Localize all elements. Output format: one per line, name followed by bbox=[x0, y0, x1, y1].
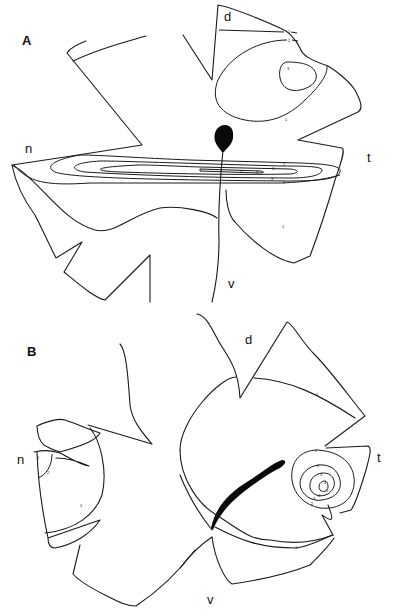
retina-outline-b-left-cut bbox=[88, 344, 152, 444]
panel-label-a: A bbox=[22, 33, 32, 48]
svg-text:1: 1 bbox=[285, 117, 288, 122]
retina-outline-b-ventral-line bbox=[215, 527, 333, 548]
panel-a: A 1 2 3 1 2 3 4 5 3 2 1 d n t bbox=[12, 5, 371, 302]
svg-text:1: 1 bbox=[282, 224, 285, 229]
orient-b-temporal: t bbox=[377, 450, 381, 465]
figure-canvas: A 1 2 3 1 2 3 4 5 3 2 1 d n t bbox=[0, 0, 393, 614]
retina-outline-b-cross bbox=[180, 475, 212, 568]
orient-b-ventral: v bbox=[207, 592, 214, 607]
retina-outline-b-dorsal-cut bbox=[197, 314, 365, 446]
orient-a-temporal: t bbox=[367, 150, 371, 165]
orient-a-nasal: n bbox=[25, 141, 32, 156]
retina-outline-a-cut-top bbox=[183, 5, 361, 263]
svg-text:2: 2 bbox=[47, 470, 50, 475]
contour-a-2-dorsal bbox=[215, 40, 327, 121]
retina-outline-b-ventral-lower bbox=[212, 537, 334, 584]
svg-text:2: 2 bbox=[317, 463, 320, 468]
contour-a-5-streak bbox=[200, 169, 264, 173]
svg-text:2: 2 bbox=[288, 38, 291, 43]
orient-a-ventral: v bbox=[228, 276, 235, 291]
orient-a-dorsal: d bbox=[224, 9, 231, 24]
contour-a-4-streak bbox=[100, 165, 297, 174]
svg-text:3: 3 bbox=[271, 176, 274, 181]
retina-outline-a-stalk bbox=[212, 150, 223, 302]
panel-label-b: B bbox=[27, 344, 36, 359]
svg-text:1: 1 bbox=[288, 29, 291, 34]
svg-text:5: 5 bbox=[240, 169, 243, 174]
retina-outline-b-nasal-flap bbox=[37, 419, 100, 452]
contour-a-3-dorsal bbox=[280, 62, 317, 91]
retina-outline-b-nasal-arc bbox=[45, 428, 104, 533]
optic-disc-b bbox=[211, 460, 285, 530]
optic-disc-a bbox=[214, 125, 233, 152]
contour-b-1-nasal bbox=[38, 454, 52, 478]
orient-b-nasal: n bbox=[17, 452, 24, 467]
svg-text:5: 5 bbox=[326, 488, 329, 493]
retina-outline-b-lower bbox=[73, 545, 195, 606]
retina-outline-b-main-top bbox=[180, 377, 355, 450]
orient-b-dorsal: d bbox=[245, 332, 252, 347]
retina-outline-b-nasal bbox=[34, 451, 100, 548]
svg-text:2: 2 bbox=[311, 501, 314, 506]
panel-b: B 1 2 1 1 1 2 3 4 5 bbox=[17, 314, 381, 607]
svg-text:1: 1 bbox=[37, 455, 40, 460]
svg-text:3: 3 bbox=[287, 66, 290, 71]
retina-outline-b-temporal-flap bbox=[326, 446, 370, 513]
retina-outline-a-lower bbox=[12, 165, 217, 231]
svg-text:1: 1 bbox=[80, 503, 83, 508]
retina-outline-a-top-arc bbox=[73, 36, 146, 61]
retina-outline-b-main-left bbox=[180, 450, 333, 543]
